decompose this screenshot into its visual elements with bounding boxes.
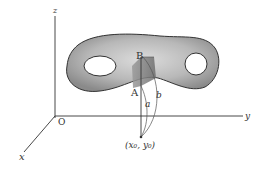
- x-axis: [24, 116, 55, 152]
- origin-label: O: [58, 117, 65, 127]
- arc-a: [141, 86, 147, 137]
- point-b-label: B: [136, 50, 143, 61]
- base-point-label: (x₀, y₀): [125, 140, 156, 150]
- point-a-label: A: [130, 87, 139, 98]
- arc-a-label: a: [145, 99, 150, 109]
- z-axis-label: z: [52, 6, 58, 15]
- x-axis-label: x: [19, 151, 25, 162]
- diagram-canvas: z y x O B A a b (x₀, y₀): [0, 0, 259, 170]
- base-point: [140, 136, 143, 139]
- y-axis-label: y: [244, 111, 251, 121]
- right-hole: [185, 53, 207, 75]
- arc-b-label: b: [156, 90, 162, 100]
- left-hole: [84, 56, 116, 76]
